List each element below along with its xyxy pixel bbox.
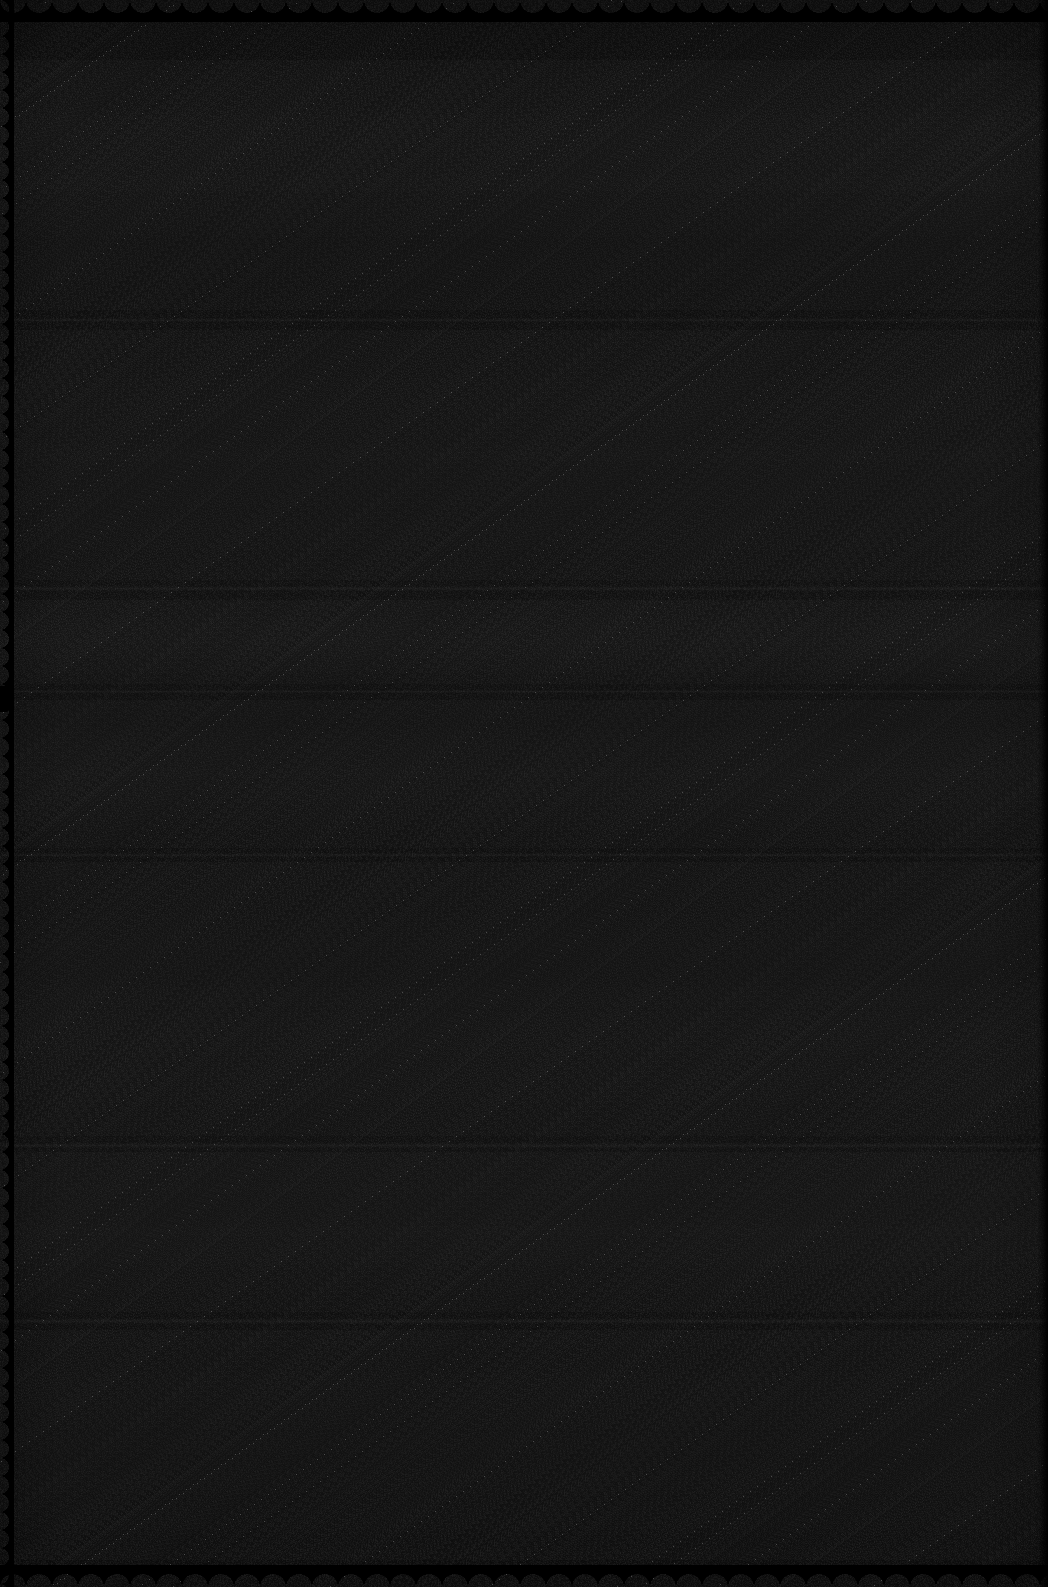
page-surface <box>0 0 1048 1587</box>
scanned-page-canvas: Severely underexposed photograph/scan of… <box>0 0 1048 1587</box>
